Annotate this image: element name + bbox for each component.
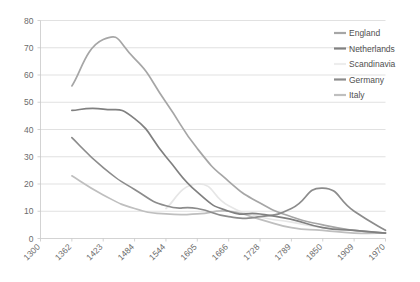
y-axis-tick-label: 40: [24, 125, 34, 135]
tickmarks-group: [38, 21, 386, 242]
series-line-italy: [72, 176, 386, 234]
x-axis-tick-label: 1789: [272, 242, 293, 263]
series-line-netherlands: [72, 108, 386, 233]
legend: EnglandNetherlandsScandinaviaGermanyItal…: [334, 28, 396, 100]
x-axis-tick-label: 1666: [210, 242, 231, 263]
x-axis-tick-label: 1423: [84, 242, 105, 263]
legend-label-germany[interactable]: Germany: [349, 75, 385, 85]
y-axis-tick-label: 20: [24, 179, 34, 189]
y-axis-tick-label: 70: [24, 43, 34, 53]
x-axis-tick-label: 1300: [21, 242, 42, 263]
legend-label-netherlands[interactable]: Netherlands: [349, 44, 395, 54]
x-axis-tick-label: 1909: [335, 242, 356, 263]
x-axis-tick-label: 1970: [366, 242, 387, 263]
y-axis-tick-label: 0: [29, 234, 34, 244]
y-axis-tick-label: 30: [24, 152, 34, 162]
legend-label-italy[interactable]: Italy: [349, 90, 365, 100]
legend-label-england[interactable]: England: [349, 28, 380, 38]
x-axis-tick-label: 1605: [178, 242, 199, 263]
x-axis-tick-label: 1484: [116, 242, 137, 263]
x-axis-tick-label: 1728: [241, 242, 262, 263]
y-axis-tick-label: 60: [24, 70, 34, 80]
y-axis-tick-label: 80: [24, 16, 34, 26]
legend-label-scandinavia[interactable]: Scandinavia: [349, 59, 396, 69]
y-axis-labels-group: 01020304050607080: [24, 16, 34, 244]
x-axis-tick-label: 1544: [147, 242, 168, 263]
x-axis-labels-group: 1300136214231484154416051666172817891850…: [21, 242, 387, 263]
x-axis-tick-label: 1850: [304, 242, 325, 263]
chart-container: 01020304050607080 1300136214231484154416…: [0, 0, 420, 282]
series-lines-group: [72, 37, 386, 234]
x-axis-tick-label: 1362: [53, 242, 74, 263]
line-chart: 01020304050607080 1300136214231484154416…: [0, 0, 420, 282]
y-axis-tick-label: 10: [24, 206, 34, 216]
y-axis-tick-label: 50: [24, 97, 34, 107]
